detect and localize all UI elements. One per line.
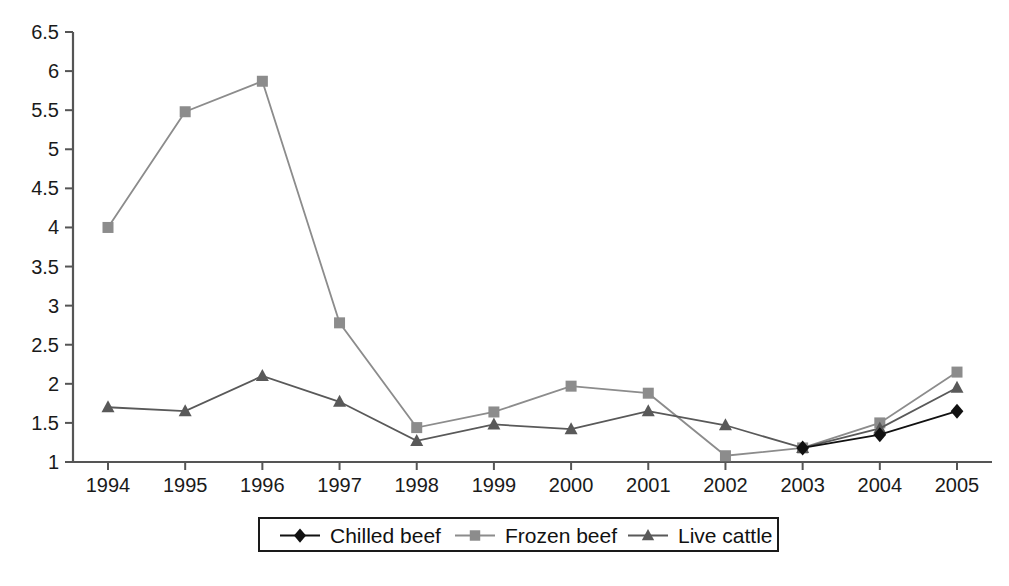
data-point-marker-square [180,106,191,117]
x-tick-label: 1996 [240,474,285,496]
series-polyline [108,376,957,448]
series-chilled-beef [796,404,963,456]
y-tick-label: 4 [48,216,59,238]
data-point-marker-square [720,450,731,461]
y-tick-label: 4.5 [31,177,59,199]
y-axis-tick-labels: 11.522.533.544.555.566.5 [31,21,59,473]
data-point-marker-triangle [951,381,964,393]
chart-canvas: 11.522.533.544.555.566.5 199419951996199… [0,0,1009,586]
y-tick-label: 5 [48,138,59,160]
data-point-marker-triangle [102,400,115,412]
data-point-marker-square [103,222,114,233]
data-point-marker-square [643,388,654,399]
data-point-marker-square [470,530,480,540]
y-tick-label: 1 [48,451,59,473]
y-tick-label: 2 [48,373,59,395]
series-frozen-beef [103,76,963,461]
x-tick-label: 1995 [163,474,208,496]
series-polyline [108,81,957,455]
legend-label: Frozen beef [505,524,617,547]
y-tick-label: 1.5 [31,412,59,434]
data-point-marker-diamond [951,404,964,419]
line-chart: 11.522.533.544.555.566.5 199419951996199… [0,0,1009,586]
data-point-marker-square [566,381,577,392]
figure-caption [0,573,1009,586]
x-axis-tickmarks [108,462,957,470]
y-tick-label: 6 [48,60,59,82]
y-tick-label: 3 [48,295,59,317]
x-tick-label: 1994 [86,474,131,496]
data-point-marker-square [488,406,499,417]
y-tick-label: 5.5 [31,99,59,121]
data-point-marker-square [411,422,422,433]
x-tick-label: 2005 [935,474,980,496]
x-axis-tick-labels: 1994199519961997199819992000200120022003… [86,474,980,496]
x-tick-label: 2004 [858,474,903,496]
chart-legend: Chilled beefFrozen beefLive cattle [259,518,778,551]
x-tick-label: 1998 [394,474,439,496]
data-series-layer [102,76,964,461]
x-tick-label: 2003 [780,474,825,496]
y-tick-label: 3.5 [31,256,59,278]
data-point-marker-triangle [642,404,655,416]
data-point-marker-triangle [256,369,269,381]
data-point-marker-square [952,367,963,378]
data-point-marker-triangle [487,418,500,430]
x-tick-label: 2000 [549,474,594,496]
series-live-cattle [102,369,964,453]
y-tick-label: 6.5 [31,21,59,43]
y-axis-tickmarks [65,32,73,462]
x-tick-label: 2001 [626,474,671,496]
y-tick-label: 2.5 [31,334,59,356]
legend-label: Chilled beef [330,524,441,547]
legend-label: Live cattle [678,524,773,547]
x-tick-label: 1997 [317,474,362,496]
x-tick-label: 1999 [472,474,517,496]
x-tick-label: 2002 [703,474,748,496]
data-point-marker-square [334,317,345,328]
data-point-marker-square [257,76,268,87]
